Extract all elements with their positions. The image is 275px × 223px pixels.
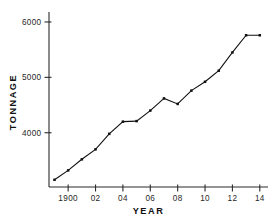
- axis-titles-group: TONNAGEYEAR: [8, 74, 164, 216]
- y-axis-title: TONNAGE: [8, 74, 18, 130]
- data-point-marker: [231, 51, 234, 54]
- line-chart-plot: 400050006000190002040608101214TONNAGEYEA…: [0, 0, 275, 223]
- data-point-marker: [81, 158, 84, 161]
- x-tick-label: 04: [118, 194, 128, 203]
- y-tick-label: 4000: [22, 129, 42, 138]
- x-tick-label: 06: [145, 194, 155, 203]
- data-point-marker: [135, 120, 138, 123]
- data-point-marker: [163, 97, 166, 100]
- chart-figure: 400050006000190002040608101214TONNAGEYEA…: [0, 0, 275, 223]
- data-point-marker: [259, 34, 262, 37]
- x-tick-label: 1900: [58, 194, 78, 203]
- y-axis-ticks: 400050006000: [22, 18, 52, 138]
- data-point-marker: [94, 148, 97, 151]
- data-point-marker: [67, 169, 70, 172]
- y-tick-label: 6000: [22, 18, 42, 27]
- x-tick-label: 08: [173, 194, 183, 203]
- x-tick-label: 12: [228, 194, 238, 203]
- data-point-marker: [176, 103, 179, 106]
- series-line: [54, 35, 259, 180]
- x-tick-label: 14: [255, 194, 265, 203]
- data-point-marker: [245, 34, 248, 37]
- data-point-marker: [149, 109, 152, 112]
- x-tick-label: 10: [200, 194, 210, 203]
- data-point-marker: [217, 69, 220, 72]
- data-point-marker: [204, 81, 207, 84]
- data-point-marker: [122, 120, 125, 123]
- x-axis-title: YEAR: [133, 206, 165, 216]
- data-point-marker: [190, 89, 193, 92]
- data-series-tonnage: [53, 34, 261, 181]
- x-tick-label: 02: [91, 194, 101, 203]
- y-tick-label: 5000: [22, 73, 42, 82]
- data-point-marker: [53, 179, 56, 182]
- data-point-marker: [108, 133, 111, 136]
- axes-group: [49, 12, 268, 187]
